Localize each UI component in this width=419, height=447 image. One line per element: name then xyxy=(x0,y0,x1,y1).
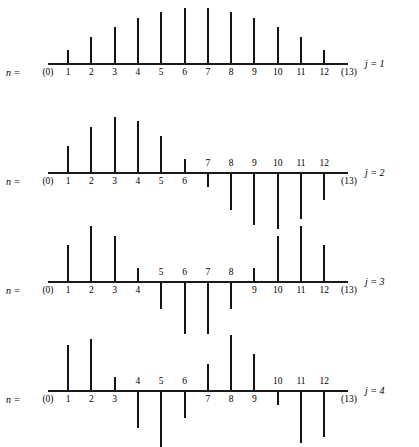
stem-bar xyxy=(207,364,209,390)
tick-label: 6 xyxy=(174,376,196,387)
tick-label: 3 xyxy=(104,285,126,296)
plot-area: n =(0)(13)123456789101112j = 4 xyxy=(0,327,419,436)
index-label: n = xyxy=(6,176,20,187)
tick-label: 9 xyxy=(243,158,265,169)
tick-label: 8 xyxy=(220,67,242,78)
stem-bar xyxy=(230,174,232,210)
stem-bar xyxy=(253,268,255,281)
stem-panel-2: n =(0)(13)123456789101112j = 2 xyxy=(0,109,419,218)
tick-label: 2 xyxy=(80,67,102,78)
tick-label: 1 xyxy=(57,394,79,405)
stem-bar xyxy=(230,12,232,63)
stem-bar xyxy=(137,268,139,281)
stem-bar xyxy=(323,245,325,281)
index-label: n = xyxy=(6,285,20,296)
tick-label: 4 xyxy=(127,176,149,187)
stem-bar xyxy=(207,174,209,187)
tick-label: 11 xyxy=(290,376,312,387)
stem-bar xyxy=(160,12,162,63)
stem-bar xyxy=(184,8,186,63)
tick-label: 6 xyxy=(174,67,196,78)
stem-bar xyxy=(277,236,279,281)
tick-label: 8 xyxy=(220,267,242,278)
stem-bar xyxy=(207,8,209,63)
tick-label: 9 xyxy=(243,67,265,78)
tick-label: 7 xyxy=(197,394,219,405)
tick-label: 5 xyxy=(150,176,172,187)
tick-label: 5 xyxy=(150,267,172,278)
tick-label: 1 xyxy=(57,67,79,78)
tick-label: 7 xyxy=(197,67,219,78)
stem-bar xyxy=(323,174,325,200)
tick-label: 5 xyxy=(150,376,172,387)
stem-bar xyxy=(323,392,325,437)
tick-label: 11 xyxy=(290,67,312,78)
stem-bar xyxy=(137,18,139,63)
tick-label: 11 xyxy=(290,158,312,169)
endpoint-label-left: (0) xyxy=(38,176,58,187)
tick-label: 12 xyxy=(313,67,335,78)
axis-line xyxy=(48,172,348,174)
tick-label: 9 xyxy=(243,285,265,296)
series-label: j = 3 xyxy=(365,276,385,287)
stem-bar xyxy=(160,283,162,309)
stem-bar xyxy=(300,392,302,443)
tick-label: 3 xyxy=(104,394,126,405)
tick-label: 2 xyxy=(80,394,102,405)
tick-label: 4 xyxy=(127,67,149,78)
endpoint-label-right: (13) xyxy=(336,176,362,187)
stem-bar xyxy=(114,27,116,63)
tick-label: 1 xyxy=(57,285,79,296)
stem-bar xyxy=(137,121,139,172)
index-label: n = xyxy=(6,394,20,405)
tick-label: 8 xyxy=(220,394,242,405)
stem-bar xyxy=(137,392,139,428)
tick-label: 12 xyxy=(313,285,335,296)
stem-bar xyxy=(184,392,186,418)
axis-line xyxy=(48,281,348,283)
endpoint-label-left: (0) xyxy=(38,394,58,405)
tick-label: 4 xyxy=(127,376,149,387)
stem-bar xyxy=(67,146,69,172)
stem-bar xyxy=(184,159,186,172)
plot-area: n =(0)(13)123456789101112j = 3 xyxy=(0,218,419,327)
stem-bar xyxy=(300,174,302,219)
stem-panel-3: n =(0)(13)123456789101112j = 3 xyxy=(0,218,419,327)
tick-label: 10 xyxy=(267,158,289,169)
tick-label: 2 xyxy=(80,176,102,187)
tick-label: 9 xyxy=(243,394,265,405)
tick-label: 12 xyxy=(313,376,335,387)
tick-label: 11 xyxy=(290,285,312,296)
stem-bar xyxy=(300,226,302,281)
tick-label: 3 xyxy=(104,67,126,78)
axis-line xyxy=(48,63,348,65)
endpoint-label-right: (13) xyxy=(336,394,362,405)
stem-bar xyxy=(114,117,116,172)
endpoint-label-right: (13) xyxy=(336,67,362,78)
stem-bar xyxy=(277,392,279,405)
plot-area: n =(0)(13)123456789101112j = 2 xyxy=(0,109,419,218)
stem-bar xyxy=(300,37,302,63)
stem-bar xyxy=(253,354,255,390)
stem-bar xyxy=(160,392,162,447)
stem-bar xyxy=(90,339,92,390)
endpoint-label-right: (13) xyxy=(336,285,362,296)
series-label: j = 1 xyxy=(365,58,385,69)
tick-label: 10 xyxy=(267,376,289,387)
tick-label: 3 xyxy=(104,176,126,187)
tick-label: 6 xyxy=(174,176,196,187)
stem-bar xyxy=(90,37,92,63)
tick-label: 10 xyxy=(267,285,289,296)
tick-label: 6 xyxy=(174,267,196,278)
stem-bar xyxy=(67,245,69,281)
axis-line xyxy=(48,390,348,392)
stem-bar xyxy=(230,335,232,390)
stem-bar xyxy=(67,345,69,390)
stem-bar xyxy=(230,283,232,309)
tick-label: 10 xyxy=(267,67,289,78)
tick-label: 5 xyxy=(150,67,172,78)
stem-bar xyxy=(114,377,116,390)
tick-label: 8 xyxy=(220,158,242,169)
stem-panel-4: n =(0)(13)123456789101112j = 4 xyxy=(0,327,419,436)
tick-label: 1 xyxy=(57,176,79,187)
